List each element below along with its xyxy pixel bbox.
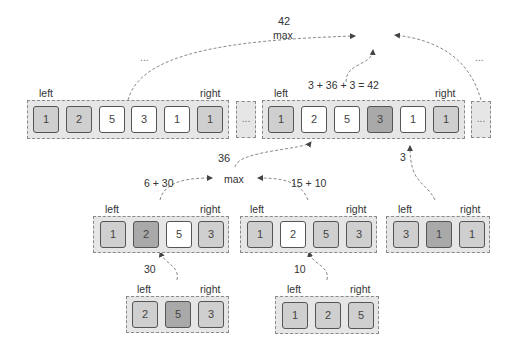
edge-label-3: 3	[400, 151, 406, 163]
edge-botright-to-midright	[309, 252, 327, 280]
array-cell: 1	[164, 106, 190, 133]
array-cell: 1	[400, 106, 426, 133]
mid-max-label: max	[224, 173, 244, 185]
array-cell: 5	[334, 106, 360, 133]
ellipsis-box-middle: ...	[236, 101, 256, 138]
edge-max36-to-root	[235, 142, 311, 167]
mid-left-sum: 6 + 30	[144, 177, 174, 189]
array-cell: 5	[166, 221, 192, 248]
root-sum-label: 3 + 36 + 3 = 42	[308, 79, 379, 91]
edges-layer	[0, 0, 514, 359]
array-group-bottom-right: 1 2 5	[275, 296, 379, 334]
array-cell: 3	[393, 221, 419, 248]
array-group-mid-left: 1 2 5 3	[93, 216, 229, 253]
array-cell: 3	[346, 221, 372, 248]
tr-left-label: left	[274, 87, 288, 99]
array-cell: 1	[100, 221, 126, 248]
mid-right-sum: 15 + 10	[291, 177, 326, 189]
far-left-label: left	[398, 203, 412, 215]
array-cell: 1	[197, 106, 223, 133]
br-left-label: left	[287, 283, 301, 295]
top-right-ellipsis: ...	[475, 51, 484, 63]
array-cell: 5	[313, 221, 339, 248]
array-cell: 1	[426, 221, 452, 248]
array-cell: 2	[280, 221, 306, 248]
array-cell: 2	[315, 302, 341, 329]
tl-left-label: left	[39, 87, 53, 99]
array-cell: 1	[268, 106, 294, 133]
root-max-value: 42	[278, 15, 290, 27]
array-group-top-right: 1 2 5 3 1 1	[262, 100, 465, 139]
array-cell: 2	[133, 221, 159, 248]
array-group-mid-right: 1 2 5 3	[240, 216, 377, 253]
root-max-label: max	[273, 29, 293, 41]
edge-sum-to-max	[346, 50, 373, 82]
ml-right-label: right	[200, 203, 220, 215]
array-cell: 5	[99, 106, 125, 133]
array-cell: 3	[367, 106, 393, 133]
array-cell: 1	[282, 302, 308, 329]
bl-left-label: left	[137, 283, 151, 295]
array-group-top-left: 1 2 5 3 1 1	[27, 100, 229, 139]
far-right-label: right	[460, 203, 480, 215]
array-cell: 1	[247, 221, 273, 248]
tr-right-label: right	[435, 87, 455, 99]
array-cell: 3	[198, 221, 224, 248]
array-cell: 3	[198, 301, 224, 328]
ml-left-label: left	[105, 203, 119, 215]
array-cell: 2	[66, 106, 92, 133]
top-left-ellipsis: ...	[140, 51, 149, 63]
array-cell: 1	[433, 106, 459, 133]
array-cell: 5	[348, 302, 374, 329]
mr-right-label: right	[346, 203, 366, 215]
edge-botleft-to-midleft	[160, 252, 177, 280]
array-cell: 2	[301, 106, 327, 133]
array-cell: 1	[459, 221, 485, 248]
edge-far-to-root	[410, 146, 435, 200]
bottom-right-edge-label: 10	[294, 263, 306, 275]
bl-right-label: right	[200, 283, 220, 295]
array-cell: 5	[165, 301, 191, 328]
ellipsis-box-right: ...	[471, 101, 491, 138]
mid-max-value: 36	[218, 152, 230, 164]
array-cell: 3	[131, 106, 157, 133]
array-cell: 1	[33, 106, 59, 133]
mr-left-label: left	[250, 203, 264, 215]
tl-right-label: right	[200, 87, 220, 99]
bottom-left-edge-label: 30	[144, 263, 156, 275]
array-group-far-right: 3 1 1	[386, 216, 490, 253]
array-group-bottom-left: 2 5 3	[126, 296, 229, 333]
br-right-label: right	[350, 283, 370, 295]
array-cell: 2	[132, 301, 158, 328]
